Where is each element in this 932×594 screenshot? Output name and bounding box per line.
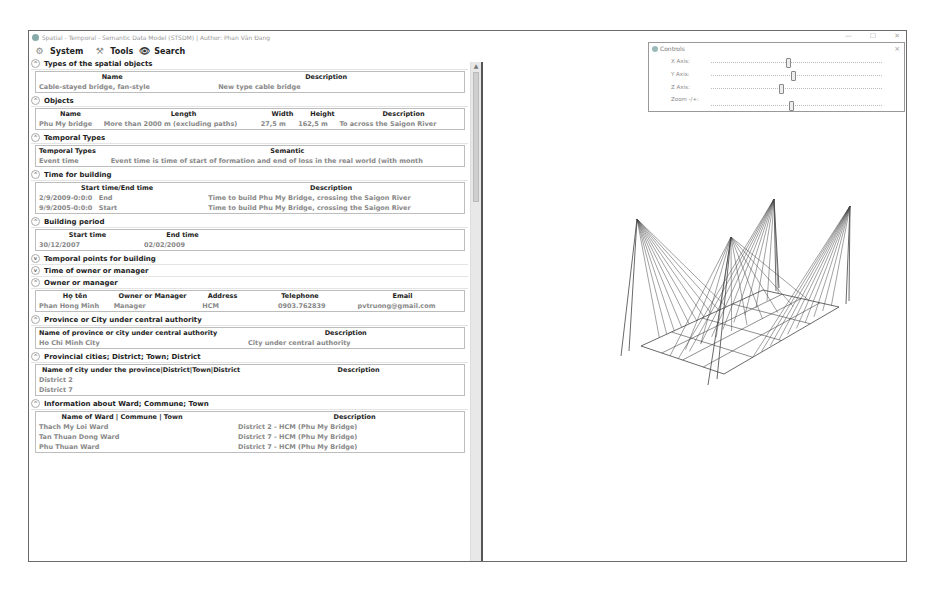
y-axis-knob[interactable] <box>791 71 796 81</box>
window-buttons: — ☐ ✕ <box>845 32 900 40</box>
time-building-table: Start time/End timeDescription 2/9/2009-… <box>35 182 465 214</box>
table-row[interactable]: Phu My bridgeMore than 2000 m (excluding… <box>36 119 464 129</box>
objects-table: NameLengthWidthHeightDescription Phu My … <box>35 108 465 130</box>
y-axis-slider[interactable] <box>711 75 882 76</box>
table-row[interactable]: Ho Chi Minh CityCity under central autho… <box>36 338 464 348</box>
table-row[interactable]: Event timeEvent time is time of start of… <box>36 156 464 166</box>
maximize-button[interactable]: ☐ <box>870 32 876 40</box>
binoculars-icon: 👁 <box>139 47 148 56</box>
search-menu[interactable]: Search <box>154 47 185 56</box>
section-header[interactable]: ^Information about Ward; Commune; Town <box>31 398 468 410</box>
section-header[interactable]: ^Province or City under central authorit… <box>31 314 468 326</box>
details-panel: ^Types of the spatial objects NameDescri… <box>29 58 470 561</box>
chevron-down-icon[interactable]: v <box>31 254 40 263</box>
x-axis-knob[interactable] <box>786 58 791 68</box>
province-table: Name of province or city under central a… <box>35 327 465 349</box>
section-header[interactable]: ^Objects <box>31 95 468 107</box>
y-axis-slider-row: Y Axis: <box>649 70 904 80</box>
z-axis-knob[interactable] <box>779 84 784 94</box>
table-row[interactable]: Cable-stayed bridge, fan-styleNew type c… <box>36 82 464 92</box>
spatial-types-table: NameDescription Cable-stayed bridge, fan… <box>35 71 465 93</box>
zoom-slider[interactable] <box>711 105 882 106</box>
section-header[interactable]: ^Provincial cities; District; Town; Dist… <box>31 351 468 363</box>
controls-title-bar: Controls <box>652 45 685 52</box>
table-row[interactable]: Thach My Loi WardDistrict 2 - HCM (Phu M… <box>36 422 464 432</box>
chevron-up-icon[interactable]: ^ <box>31 278 40 287</box>
app-icon <box>652 46 658 52</box>
table-row[interactable]: 2/9/2009-0:0:0EndTime to build Phu My Br… <box>36 193 464 203</box>
bridge-3d-model <box>484 62 908 563</box>
section-district: ^Provincial cities; District; Town; Dist… <box>31 351 468 396</box>
chevron-up-icon[interactable]: ^ <box>31 59 40 68</box>
chevron-up-icon[interactable]: ^ <box>31 315 40 324</box>
table-row[interactable]: Tan Thuan Dong WardDistrict 7 - HCM (Phu… <box>36 432 464 442</box>
table-row[interactable]: Phu Thuan WardDistrict 7 - HCM (Phu My B… <box>36 442 464 452</box>
window-title: Spatial - Temporal - Semantic Data Model… <box>42 34 270 41</box>
section-header[interactable]: vTemporal points for building <box>31 253 468 265</box>
panel-divider[interactable] <box>481 62 483 561</box>
chevron-up-icon[interactable]: ^ <box>31 399 40 408</box>
close-button[interactable]: ✕ <box>894 32 900 40</box>
section-building-period: ^Building period Start timeEnd time 30/1… <box>31 216 468 251</box>
section-temporal-types: ^Temporal Types Temporal TypesSemantic E… <box>31 132 468 167</box>
app-icon <box>32 34 39 41</box>
table-row[interactable]: Phan Hong MinhManagerHCM0903.762839pvtru… <box>36 301 464 311</box>
building-period-table: Start timeEnd time 30/12/200702/02/2009 <box>35 229 465 251</box>
system-menu[interactable]: System <box>50 47 83 56</box>
section-province: ^Province or City under central authorit… <box>31 314 468 349</box>
chevron-up-icon[interactable]: ^ <box>31 133 40 142</box>
3d-viewport[interactable] <box>484 62 906 561</box>
chevron-up-icon[interactable]: ^ <box>31 352 40 361</box>
table-row[interactable]: District 7 <box>36 385 464 395</box>
chevron-up-icon[interactable]: ^ <box>31 217 40 226</box>
controls-window: Controls × X Axis: Y Axis: Z Axis: Zoom … <box>648 42 905 112</box>
z-axis-slider[interactable] <box>711 88 882 89</box>
district-table: Name of city under the province|District… <box>35 364 465 396</box>
section-header[interactable]: ^Building period <box>31 216 468 228</box>
zoom-knob[interactable] <box>789 101 794 111</box>
vertical-scrollbar[interactable]: ▲ <box>470 62 481 561</box>
toolbar: ⚙ System ⚒ Tools 👁 Search <box>29 44 185 58</box>
table-row[interactable]: 30/12/200702/02/2009 <box>36 240 464 250</box>
chevron-down-icon[interactable]: v <box>31 266 40 275</box>
x-axis-slider[interactable] <box>711 62 882 63</box>
scroll-thumb[interactable] <box>473 72 479 202</box>
section-header[interactable]: ^Time for building <box>31 169 468 181</box>
section-objects: ^Objects NameLengthWidthHeightDescriptio… <box>31 95 468 130</box>
chevron-up-icon[interactable]: ^ <box>31 170 40 179</box>
section-temporal-points: vTemporal points for building <box>31 253 468 265</box>
section-header[interactable]: ^Temporal Types <box>31 132 468 144</box>
section-header[interactable]: ^Types of the spatial objects <box>31 58 468 70</box>
temporal-types-table: Temporal TypesSemantic Event timeEvent t… <box>35 145 465 167</box>
zoom-slider-row: Zoom -/+: <box>649 95 904 105</box>
controls-close-button[interactable]: × <box>894 45 900 53</box>
section-time-owner: vTime of owner or manager <box>31 265 468 277</box>
scroll-up-arrow[interactable]: ▲ <box>471 62 481 70</box>
section-ward: ^Information about Ward; Commune; Town N… <box>31 398 468 453</box>
gear-icon: ⚙ <box>35 47 44 56</box>
z-axis-slider-row: Z Axis: <box>649 83 904 93</box>
owner-table: Họ tênOwner or ManagerAddressTelephoneEm… <box>35 290 465 312</box>
x-axis-slider-row: X Axis: <box>649 57 904 67</box>
tools-menu[interactable]: Tools <box>110 47 133 56</box>
section-spatial-types: ^Types of the spatial objects NameDescri… <box>31 58 468 93</box>
table-row[interactable]: District 2 <box>36 375 464 385</box>
minimize-button[interactable]: — <box>845 32 852 40</box>
section-header[interactable]: ^Owner or manager <box>31 277 468 289</box>
table-row[interactable]: 9/9/2005-0:0:0StartTime to build Phu My … <box>36 203 464 213</box>
section-header[interactable]: vTime of owner or manager <box>31 265 468 277</box>
section-time-building: ^Time for building Start time/End timeDe… <box>31 169 468 214</box>
ward-table: Name of Ward | Commune | TownDescription… <box>35 411 465 453</box>
chevron-up-icon[interactable]: ^ <box>31 96 40 105</box>
section-owner: ^Owner or manager Họ tênOwner or Manager… <box>31 277 468 312</box>
tools-icon: ⚒ <box>95 47 104 56</box>
